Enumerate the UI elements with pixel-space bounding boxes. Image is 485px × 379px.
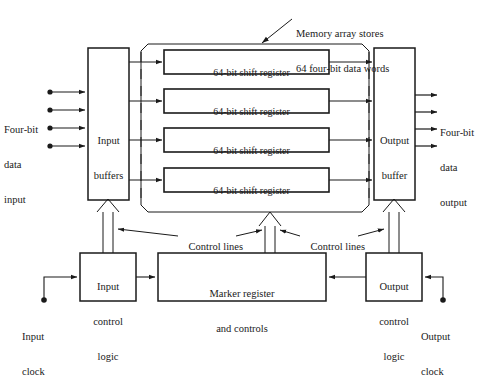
input-buffers-block: [88, 48, 129, 200]
input-clock-line2: clock: [22, 366, 74, 378]
marker-register-block: [158, 253, 326, 301]
input-control-logic-block: [80, 253, 136, 301]
output-control-logic-block: [366, 253, 422, 301]
input-control-line3: logic: [80, 351, 136, 363]
output-clock-line2: clock: [421, 366, 477, 378]
output-buffer-block: [374, 48, 415, 200]
output-control-line3: logic: [366, 351, 422, 363]
